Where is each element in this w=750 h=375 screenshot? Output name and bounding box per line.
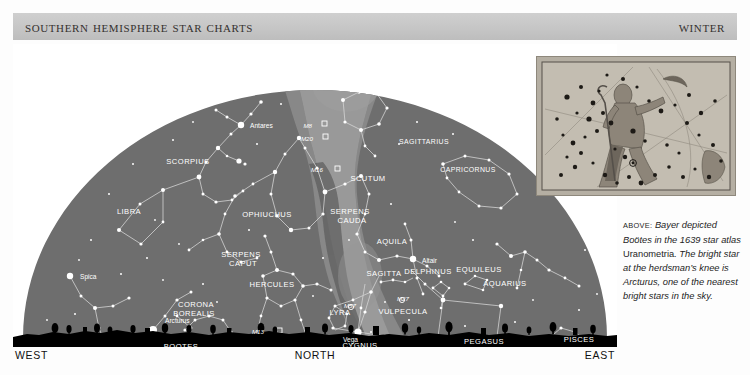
constellation-label: SERPENS (330, 207, 369, 216)
constellation-label: EQUULEUS (456, 265, 501, 274)
page-header: Southern Hemisphere Star Charts Winter (13, 13, 737, 40)
direction-west: WEST (15, 349, 48, 361)
constellation-label: AQUILA (377, 237, 408, 246)
constellation-label: PISCES (564, 335, 595, 344)
constellation-label: CORONA (178, 300, 215, 309)
star-label: Altair (422, 257, 438, 264)
constellation-label: SCUTUM (350, 174, 385, 183)
star-chart-page: Southern Hemisphere Star Charts Winter (0, 0, 750, 375)
sky-chart: SCORPIUSLIBRAOPHIUCHUSSERPENSCAPUTSERPEN… (13, 44, 617, 347)
direction-east: EAST (585, 349, 615, 361)
caption-atlas-name: Uranometria (623, 249, 674, 259)
constellation-label: HERCULES (250, 280, 295, 289)
sky-chart-svg: SCORPIUSLIBRAOPHIUCHUSSERPENSCAPUTSERPEN… (13, 44, 617, 347)
constellation-label: CAUDA (338, 216, 367, 225)
constellation-label: VULPECULA (378, 307, 428, 316)
bootes-engraving-svg (537, 57, 735, 195)
constellation-label: PEGASUS (464, 337, 504, 346)
constellation-label: SERPENS (221, 250, 260, 259)
star-label: Antares (250, 122, 273, 129)
constellation-label: AQUARIUS (483, 279, 526, 288)
constellation-label: CAPUT (229, 259, 257, 268)
compass-labels: WEST NORTH EAST (13, 349, 617, 365)
star-label: Arcturus (165, 317, 190, 324)
deep-sky-label: M57 (344, 302, 357, 309)
season-label: Winter (679, 18, 725, 36)
deep-sky-label: M8 (303, 122, 312, 129)
bootes-engraving-inset (536, 56, 736, 196)
constellation-label: CAPRICORNUS (440, 166, 495, 173)
caption-lead: ABOVE: (623, 221, 652, 230)
constellation-label: OPHIUCHUS (242, 210, 292, 219)
constellation-label: LYRA (329, 308, 351, 317)
deep-sky-label: M27 (397, 295, 410, 302)
deep-sky-label: M13 (252, 328, 265, 335)
direction-north: NORTH (295, 349, 336, 361)
inset-caption: ABOVE: Bayer depicted Boötes in the 1639… (623, 218, 741, 304)
deep-sky-label: M20 (301, 135, 314, 142)
star-label: Vega (343, 336, 358, 344)
constellation-label: SCORPIUS (166, 157, 209, 166)
constellation-label: BOOTES (164, 342, 198, 347)
deep-sky-label: M16 (311, 166, 324, 173)
constellation-label: SAGITTA (366, 269, 402, 278)
constellation-label: DELPHINUS (404, 267, 452, 276)
constellation-label: SAGITTARIUS (399, 138, 449, 145)
star-label: Spica (80, 273, 97, 281)
page-title: Southern Hemisphere Star Charts (25, 18, 253, 36)
constellation-label: LIBRA (117, 207, 142, 216)
